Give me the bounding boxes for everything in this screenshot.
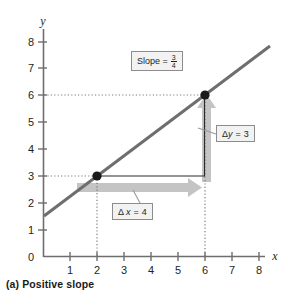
figure-caption: (a) Positive slope <box>6 278 94 290</box>
y-tick-label: 5 <box>28 116 34 128</box>
y-axis-ticks <box>38 42 47 230</box>
delta-x-value: 4 <box>142 207 147 217</box>
delta-x-variable: x <box>126 207 131 217</box>
delta-y-variable: y <box>228 129 233 139</box>
y-axis-label: y <box>39 14 46 28</box>
data-point-a <box>92 171 101 180</box>
y-tick-label: 7 <box>28 62 34 74</box>
delta-x-arrow-shape <box>77 178 202 197</box>
x-tick-label: 4 <box>148 264 154 276</box>
y-tick-label: 3 <box>28 170 34 182</box>
x-tick-label: 7 <box>229 264 235 276</box>
slope-callout-text: Slope = <box>137 56 168 66</box>
slope-numerator: 3 <box>171 54 177 61</box>
y-tick-label: 4 <box>28 143 34 155</box>
coordinate-plot: 8 7 6 5 4 3 2 1 0 1 2 3 4 5 6 7 8 y x <box>0 0 288 298</box>
x-tick-label: 2 <box>94 264 100 276</box>
origin-label: 0 <box>28 251 34 263</box>
x-tick-label: 3 <box>121 264 127 276</box>
slope-figure: 8 7 6 5 4 3 2 1 0 1 2 3 4 5 6 7 8 y x <box>0 0 288 298</box>
y-tick-label: 1 <box>28 224 34 236</box>
delta-y-arrow-shape <box>197 94 216 182</box>
delta-x-equals: = <box>134 207 139 217</box>
delta-y-callout: Δy=3 <box>216 125 255 142</box>
y-tick-label: 8 <box>28 36 34 48</box>
x-tick-label: 1 <box>67 264 73 276</box>
y-tick-label: 6 <box>28 89 34 101</box>
delta-y-equals: = <box>236 129 241 139</box>
delta-x-callout: Δx=4 <box>112 203 153 220</box>
y-tick-label: 2 <box>28 197 34 209</box>
data-point-b <box>200 90 209 99</box>
x-tick-label: 6 <box>202 264 208 276</box>
delta-x-symbol: Δ <box>118 207 124 217</box>
delta-y-value: 3 <box>244 129 249 139</box>
slope-fraction: 3 4 <box>171 54 177 69</box>
slope-callout: Slope = 3 4 <box>131 51 183 71</box>
slope-denominator: 4 <box>171 61 177 69</box>
axis-tick-labels: 8 7 6 5 4 3 2 1 0 1 2 3 4 5 6 7 8 <box>28 36 262 276</box>
x-tick-label: 8 <box>256 264 262 276</box>
x-axis-label: x <box>271 249 278 263</box>
x-tick-label: 5 <box>175 264 181 276</box>
